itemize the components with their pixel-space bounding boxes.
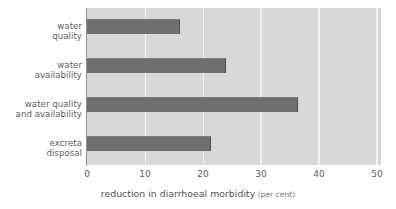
gridline-40 xyxy=(318,8,320,165)
xtick-label-0: 0 xyxy=(84,169,90,179)
category-label-water-quality-and-availability: water quality and availability xyxy=(0,99,82,119)
x-axis-title: reduction in diarrhoeal morbidity (per c… xyxy=(0,188,396,199)
xtick-label-10: 10 xyxy=(139,169,150,179)
category-label-water-availability: water availability xyxy=(0,60,82,80)
plot-area xyxy=(87,8,381,165)
bar-chart-figure: water quality water availability water q… xyxy=(0,0,396,209)
xtick-label-30: 30 xyxy=(255,169,266,179)
bar-excreta-disposal xyxy=(87,136,211,151)
gridline-50 xyxy=(376,8,378,165)
category-label-excreta-disposal: excreta disposal xyxy=(0,138,82,158)
gridline-30 xyxy=(260,8,262,165)
y-axis-line xyxy=(86,8,87,166)
category-label-water-quality: water quality xyxy=(0,21,82,41)
bar-water-availability xyxy=(87,58,226,73)
bar-water-quality-and-availability xyxy=(87,97,298,112)
xtick-label-40: 40 xyxy=(313,169,324,179)
xtick-label-50: 50 xyxy=(371,169,382,179)
x-axis-title-unit: (per cent) xyxy=(255,190,295,199)
y-axis-category-labels: water quality water availability water q… xyxy=(0,8,82,165)
xtick-label-20: 20 xyxy=(197,169,208,179)
x-axis-title-text: reduction in diarrhoeal morbidity xyxy=(101,188,255,199)
bar-water-quality xyxy=(87,19,180,34)
